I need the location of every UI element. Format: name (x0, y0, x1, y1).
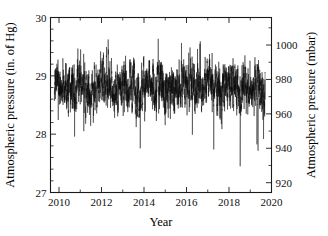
x-tick-label: 2020 (261, 196, 284, 208)
pressure-timeseries-chart: 2010201220142016201820202728293092094096… (0, 0, 328, 236)
y-tick-label: 28 (36, 128, 48, 140)
x-tick-label: 2014 (133, 196, 156, 208)
y-tick-label: 30 (36, 12, 48, 24)
y-axis-title: Atmospheric pressure (in. of Hg) (3, 22, 17, 188)
y-right-tick-label: 960 (276, 108, 293, 120)
x-axis-title: Year (149, 215, 173, 229)
chart-figure: 2010201220142016201820202728293092094096… (0, 0, 328, 236)
data-series-line (54, 39, 265, 167)
y-right-tick-label: 940 (276, 142, 293, 154)
x-tick-label: 2010 (48, 196, 71, 208)
x-tick-label: 2016 (176, 196, 199, 208)
y-tick-label: 27 (36, 187, 48, 199)
y-tick-label: 29 (36, 70, 48, 82)
x-tick-label: 2012 (91, 196, 113, 208)
y-right-tick-label: 980 (276, 73, 293, 85)
y-right-tick-label: 920 (276, 177, 293, 189)
y-right-tick-label: 1000 (276, 39, 299, 51)
x-tick-label: 2018 (218, 196, 241, 208)
y-right-axis-title: Atmospheric pressure (mbar) (304, 32, 318, 178)
